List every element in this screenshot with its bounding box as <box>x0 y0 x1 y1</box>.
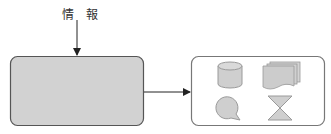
database-cylinder-icon <box>218 62 242 88</box>
diagram-canvas <box>0 0 331 134</box>
source-box <box>11 57 144 126</box>
target-box <box>192 57 325 126</box>
